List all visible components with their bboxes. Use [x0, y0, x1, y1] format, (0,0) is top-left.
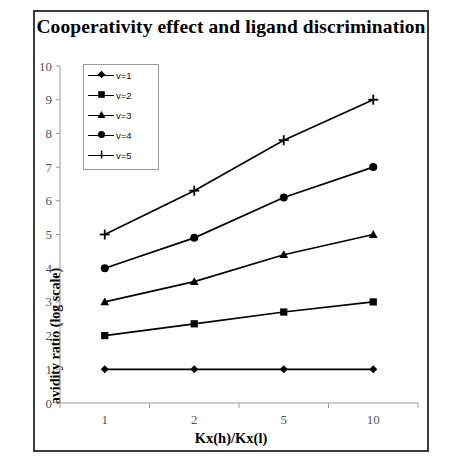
legend-item: v=1: [84, 65, 158, 85]
data-point-circle: [280, 193, 288, 201]
legend-label: v=1: [116, 70, 132, 81]
y-tick-label: 1: [46, 362, 53, 377]
legend-label: v=3: [116, 110, 132, 121]
series-v-2: [101, 298, 377, 339]
legend-marker-plus-icon: [88, 149, 114, 161]
series-v-4: [101, 163, 378, 272]
data-point-square: [280, 308, 287, 315]
plot-area: 01234567891012510: [0, 0, 463, 476]
legend-marker-diamond-icon: [88, 69, 114, 81]
y-tick-label: 4: [46, 261, 53, 276]
plot-svg: 01234567891012510: [0, 0, 463, 476]
y-tick-label: 2: [46, 328, 53, 343]
legend-marker-square-icon: [88, 89, 114, 101]
data-point-square: [101, 332, 108, 339]
chart-legend: v=1 v=2 v=3 v=4: [83, 64, 159, 170]
y-tick-label: 8: [46, 126, 53, 141]
x-tick-label: 2: [191, 412, 198, 427]
y-tick-label: 5: [46, 227, 53, 242]
data-point-circle: [101, 264, 109, 272]
x-tick-label: 5: [281, 412, 288, 427]
data-point-diamond: [280, 365, 288, 373]
data-point-plus: [279, 135, 289, 145]
legend-item: v=5: [84, 145, 158, 165]
data-point-plus: [100, 230, 110, 240]
legend-item: v=2: [84, 85, 158, 105]
data-point-plus: [368, 95, 378, 105]
legend-label: v=4: [116, 130, 132, 141]
data-point-circle: [190, 234, 198, 242]
y-tick-label: 9: [46, 92, 53, 107]
series-line: [105, 302, 374, 336]
legend-marker-circle-icon: [88, 129, 114, 141]
series-line: [105, 167, 374, 268]
series-v-1: [101, 365, 378, 373]
data-point-diamond: [369, 365, 377, 373]
data-point-diamond: [190, 365, 198, 373]
y-tick-label: 0: [46, 396, 53, 411]
x-tick-label: 10: [367, 412, 380, 427]
data-point-square: [370, 298, 377, 305]
data-point-circle: [369, 163, 377, 171]
data-point-square: [191, 320, 198, 327]
legend-item: v=4: [84, 125, 158, 145]
legend-item: v=3: [84, 105, 158, 125]
y-tick-label: 3: [46, 294, 53, 309]
series-v-3: [100, 230, 377, 305]
data-point-diamond: [101, 365, 109, 373]
data-point-plus: [189, 186, 199, 196]
y-tick-label: 7: [46, 160, 53, 175]
legend-label: v=2: [116, 90, 132, 101]
legend-label: v=5: [116, 150, 132, 161]
y-tick-label: 6: [46, 193, 53, 208]
legend-marker-triangle-icon: [88, 109, 114, 121]
chart-figure: Cooperativity effect and ligand discrimi…: [0, 0, 463, 476]
y-tick-label: 10: [39, 59, 52, 74]
series-line: [105, 235, 374, 302]
x-tick-label: 1: [102, 412, 109, 427]
data-point-triangle: [369, 230, 378, 238]
